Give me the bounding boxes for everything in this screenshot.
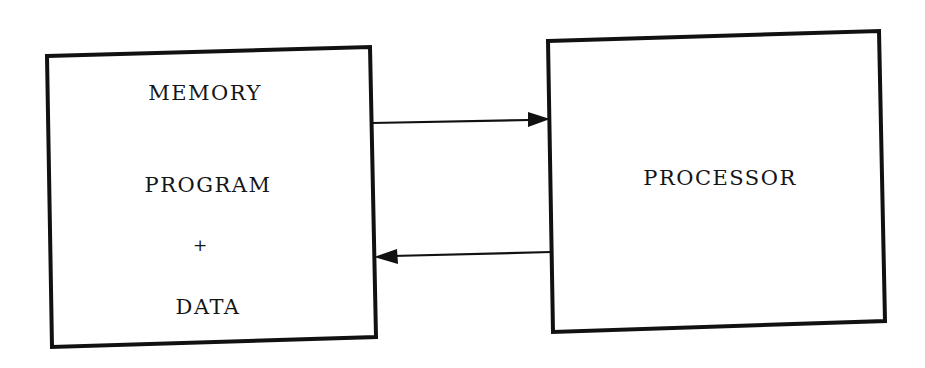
arrowhead-left-icon bbox=[374, 249, 398, 264]
processor-title: PROCESSOR bbox=[643, 168, 797, 189]
arrowhead-right-icon bbox=[528, 112, 550, 127]
program-label: PROGRAM bbox=[145, 175, 272, 196]
data-label: DATA bbox=[176, 297, 241, 318]
arrow-processor-to-memory bbox=[374, 249, 551, 264]
plus-sign: + bbox=[193, 237, 207, 254]
arrow-memory-to-processor bbox=[372, 112, 550, 127]
memory-title: MEMORY bbox=[148, 83, 262, 104]
